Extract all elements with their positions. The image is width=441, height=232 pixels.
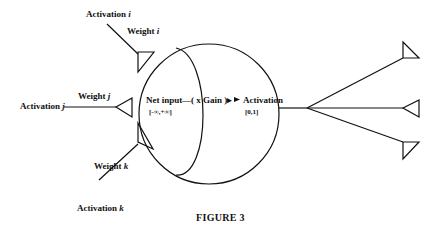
weight-k-label: Weight k <box>94 161 128 171</box>
synapse-j-icon <box>116 98 132 117</box>
weight-i-label: Weight i <box>127 26 159 36</box>
neuron-diagram <box>0 0 441 232</box>
activation-output-range: [0,1] <box>245 108 258 116</box>
net-input-label: Net input <box>146 95 182 105</box>
net-input-range: [-∞,+∞] <box>149 108 172 116</box>
output-synapse-top-icon <box>403 42 419 58</box>
activation-output-label: Activation <box>243 95 283 105</box>
output-synapse-bottom-icon <box>403 142 419 159</box>
synapse-i-icon <box>138 52 154 72</box>
unit-inner-arc <box>176 48 203 175</box>
synapse-k-icon <box>138 123 153 149</box>
output-synapse-middle-icon <box>403 100 419 117</box>
weight-j-label: Weight j <box>78 91 110 101</box>
gain-arrow-icon <box>234 97 240 102</box>
activation-i-label: Activation i <box>86 9 131 19</box>
output-branch-top <box>307 58 403 108</box>
output-branch-bottom <box>307 108 403 142</box>
figure-caption: FIGURE 3 <box>0 212 441 223</box>
activation-j-label: Activation j <box>20 101 65 111</box>
gain-label: —( x Gain )▸ <box>182 95 232 105</box>
